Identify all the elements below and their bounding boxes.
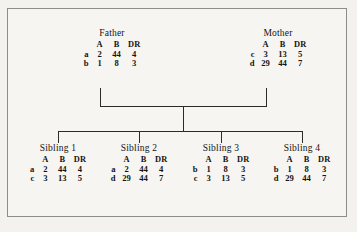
allele-b: 8 [108,59,126,69]
table-row: d 29 44 7 [247,59,308,69]
sibling-1-label: Sibling 1 [12,143,104,153]
sibling-2-haplotype-table: A B DR a 2 44 4 d 29 44 7 [108,155,169,184]
person-sibling-4: Sibling 4 A B DR b 1 8 3 d 29 44 7 [256,143,348,184]
haplotype-label: d [247,59,257,69]
haplotype-label: c [190,174,200,184]
allele-dr: 7 [292,59,309,69]
haplotype-label: d [108,174,118,184]
father-haplotype-table: A B DR a 2 44 4 b 1 8 3 [81,40,142,69]
pedigree-diagram: Father A B DR a 2 44 4 b 1 8 3 Mother [0,0,357,232]
sibling-2-label: Sibling 2 [93,143,185,153]
sibling-1-haplotype-table: A B DR a 2 44 4 c 3 13 5 [28,155,89,184]
allele-b: 13 [53,174,71,184]
table-row: d 29 44 7 [271,174,332,184]
allele-dr: 5 [71,174,88,184]
father-label: Father [62,28,162,38]
mother-label: Mother [228,28,328,38]
allele-a: 3 [37,174,53,184]
person-mother: Mother A B DR c 3 13 5 d 29 44 7 [228,28,328,69]
table-row: c 3 13 5 [190,174,251,184]
allele-b: 44 [135,174,153,184]
allele-a: 29 [119,174,135,184]
sibling-3-drop-line [221,131,222,143]
allele-a: 3 [201,174,217,184]
sibling-3-label: Sibling 3 [175,143,267,153]
table-row: c 3 13 5 [28,174,89,184]
allele-dr: 5 [235,174,252,184]
table-row: d 29 44 7 [108,174,169,184]
haplotype-label: c [28,174,38,184]
haplotype-label: d [271,174,281,184]
father-descent-line [100,88,101,106]
allele-a: 1 [92,59,108,69]
sibling-4-drop-line [302,131,303,143]
person-sibling-2: Sibling 2 A B DR a 2 44 4 d 29 44 7 [93,143,185,184]
allele-b: 13 [217,174,235,184]
allele-a: 29 [282,174,298,184]
table-row: b 1 8 3 [81,59,142,69]
allele-dr: 3 [126,59,143,69]
sibship-line [58,131,303,132]
person-father: Father A B DR a 2 44 4 b 1 8 3 [62,28,162,69]
sibling-4-label: Sibling 4 [256,143,348,153]
sibling-4-haplotype-table: A B DR b 1 8 3 d 29 44 7 [271,155,332,184]
person-sibling-1: Sibling 1 A B DR a 2 44 4 c 3 13 5 [12,143,104,184]
allele-b: 44 [298,174,316,184]
sibship-stem-line [183,106,184,131]
haplotype-label: b [81,59,91,69]
allele-dr: 7 [316,174,333,184]
allele-dr: 7 [153,174,170,184]
allele-b: 44 [274,59,292,69]
sibling-2-drop-line [139,131,140,143]
mother-haplotype-table: A B DR c 3 13 5 d 29 44 7 [247,40,308,69]
sibling-1-drop-line [58,131,59,143]
mother-descent-line [266,88,267,106]
person-sibling-3: Sibling 3 A B DR b 1 8 3 c 3 13 5 [175,143,267,184]
allele-a: 29 [258,59,274,69]
sibling-3-haplotype-table: A B DR b 1 8 3 c 3 13 5 [190,155,251,184]
